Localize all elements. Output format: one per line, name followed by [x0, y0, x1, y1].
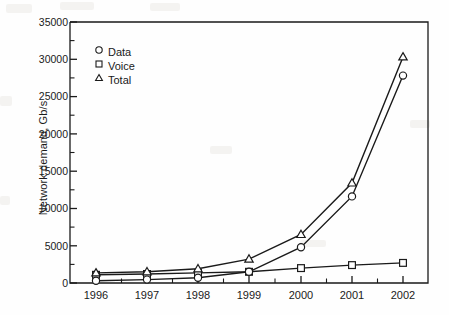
axis-frame — [70, 22, 428, 283]
data-point-voice — [400, 260, 407, 267]
data-point-data — [399, 72, 406, 79]
series-total — [92, 53, 407, 276]
data-point-total — [348, 179, 356, 186]
data-point-data — [297, 244, 304, 251]
legend-marker-square-icon — [96, 61, 102, 67]
data-point-data — [194, 274, 201, 281]
data-point-data — [348, 193, 355, 200]
data-point-data — [92, 277, 99, 284]
page-canvas: Network demand, Gb/s 35000 30000 25000 2… — [0, 0, 449, 315]
y-minor-ticks — [70, 41, 75, 265]
series-data — [92, 72, 406, 284]
legend-marker-circle-icon — [96, 47, 102, 53]
data-point-data — [143, 276, 150, 283]
network-demand-line-chart: Network demand, Gb/s 35000 30000 25000 2… — [0, 0, 449, 315]
data-point-voice — [298, 265, 305, 272]
data-point-total — [399, 53, 407, 60]
legend — [96, 47, 103, 81]
plot-area — [0, 0, 449, 315]
data-point-data — [245, 268, 252, 275]
data-point-voice — [349, 262, 356, 269]
legend-marker-triangle-icon — [96, 75, 103, 81]
